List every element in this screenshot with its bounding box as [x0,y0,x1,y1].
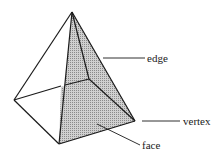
face-label: face [142,140,160,151]
edge-label: edge [147,53,168,64]
vertex-label: vertex [183,116,210,127]
edge-left-back [14,86,61,100]
shaded-base [59,79,135,144]
pyramid-figure [0,0,222,162]
edge-left-front [14,100,59,144]
pyramid-diagram: edge vertex face [0,0,222,162]
face-leader-line [97,124,140,145]
